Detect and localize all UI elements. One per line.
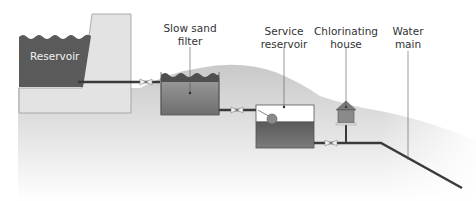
slow-sand-filter-label-line1: Slow sand <box>163 22 216 34</box>
water-supply-diagram: Reservoir <box>0 0 476 201</box>
water-main-label-line1: Water <box>392 25 424 37</box>
service-reservoir-label-line2: reservoir <box>261 38 308 50</box>
reservoir-label: Reservoir <box>30 50 80 62</box>
chlorinating-house-label-line2: house <box>330 38 362 50</box>
water-main-label-line2: main <box>395 38 421 50</box>
service-reservoir-label-line1: Service <box>265 25 304 37</box>
slow-sand-filter-label-line2: filter <box>178 35 203 47</box>
chlorinating-house-label-line1: Chlorinating <box>314 25 378 37</box>
service-reservoir-tank <box>256 105 314 148</box>
reservoir-water: Reservoir <box>19 35 91 87</box>
